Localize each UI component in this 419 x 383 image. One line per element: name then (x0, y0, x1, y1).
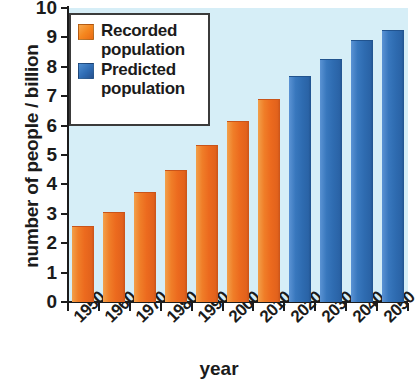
y-tick-label-8: 8 (17, 57, 57, 76)
bar-2040 (351, 40, 373, 302)
y-tick-2 (61, 242, 68, 244)
bar-2020 (289, 76, 311, 302)
legend-item-recorded: Recordedpopulation (78, 21, 203, 59)
chart-legend: Recordedpopulation Predictedpopulation (69, 13, 210, 126)
y-tick-5 (61, 154, 68, 156)
y-tick-label-1: 1 (17, 263, 57, 282)
y-tick-8 (61, 66, 68, 68)
y-tick-3 (61, 213, 68, 215)
y-tick-1 (61, 272, 68, 274)
bar-1970 (134, 192, 156, 302)
legend-item-predicted: Predictedpopulation (78, 60, 203, 98)
y-tick-label-4: 4 (17, 174, 57, 193)
bar-2030 (320, 59, 342, 302)
y-tick-label-6: 6 (17, 116, 57, 135)
y-tick-label-3: 3 (17, 204, 57, 223)
bar-2000 (227, 121, 249, 302)
legend-label-predicted: Predictedpopulation (101, 60, 185, 98)
y-tick-label-2: 2 (17, 233, 57, 252)
bar-1960 (103, 212, 125, 302)
bar-1950 (72, 226, 94, 302)
legend-label-recorded: Recordedpopulation (101, 21, 185, 59)
y-tick-label-10: 10 (17, 0, 57, 17)
y-tick-label-9: 9 (17, 27, 57, 46)
x-tick-0 (67, 303, 69, 311)
x-axis-title: year (0, 358, 408, 380)
bar-2010 (258, 99, 280, 302)
predicted-swatch-icon (78, 63, 94, 79)
y-tick-6 (61, 125, 68, 127)
y-tick-label-0: 0 (17, 292, 57, 311)
y-tick-label-5: 5 (17, 145, 57, 164)
y-tick-7 (61, 95, 68, 97)
bar-1980 (165, 170, 187, 302)
recorded-swatch-icon (78, 24, 94, 40)
bar-2050 (382, 30, 404, 302)
y-tick-4 (61, 183, 68, 185)
y-tick-label-7: 7 (17, 86, 57, 105)
bar-1990 (196, 145, 218, 302)
y-tick-10 (61, 7, 68, 9)
y-tick-9 (61, 36, 68, 38)
